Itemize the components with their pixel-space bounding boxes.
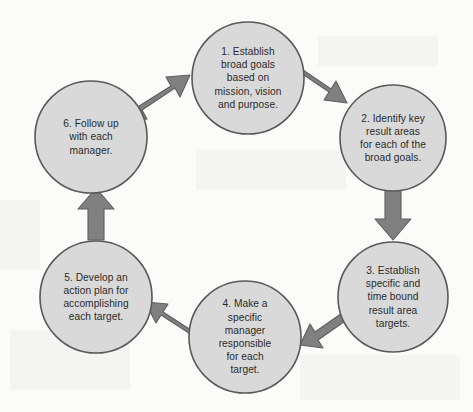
node-step-2[interactable] — [340, 85, 446, 191]
node-step-4[interactable] — [189, 281, 301, 393]
arrow-5-to-6 — [78, 188, 114, 240]
node-step-1[interactable] — [192, 22, 304, 134]
node-step-5[interactable] — [40, 241, 152, 353]
arrow-2-to-3 — [375, 188, 411, 240]
diagram-canvas: 1. Establish broad goals based on missio… — [0, 0, 473, 412]
node-step-6[interactable] — [35, 81, 147, 193]
arrow-6-to-1 — [136, 75, 190, 121]
node-step-3[interactable] — [338, 242, 448, 352]
cycle-diagram — [0, 0, 473, 412]
